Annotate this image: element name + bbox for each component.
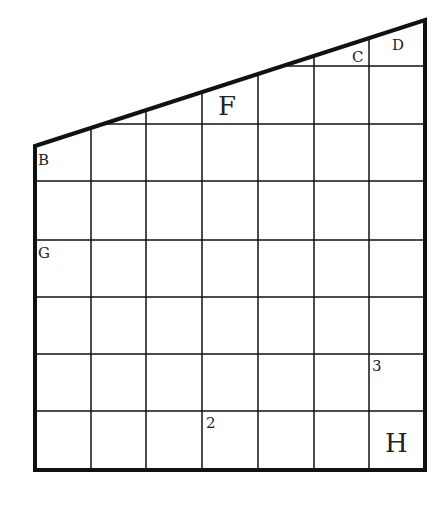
label-3: 3: [372, 357, 382, 375]
outline: [35, 20, 425, 470]
grid-lines: [35, 0, 425, 470]
label-F: F: [218, 91, 236, 121]
label-C: C: [352, 48, 363, 66]
label-2: 2: [206, 414, 216, 432]
grid-diagram: B G C D F 2 3 H: [0, 0, 446, 508]
label-B: B: [38, 151, 49, 169]
label-H: H: [385, 428, 408, 458]
label-D: D: [392, 36, 404, 54]
label-G: G: [38, 244, 50, 262]
